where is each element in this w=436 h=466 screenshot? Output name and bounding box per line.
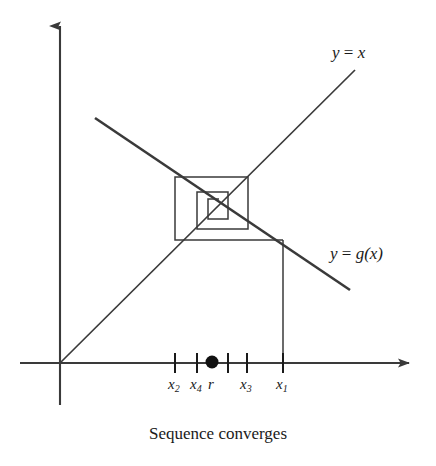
identity-label-equals: = [344, 43, 354, 62]
identity-label-x: x [358, 43, 366, 62]
g-function-line [95, 118, 350, 290]
tick-label-x3-base: x [240, 376, 247, 392]
tick-label-x4-base: x [190, 376, 197, 392]
tick-label-x2-base: x [168, 376, 175, 392]
g-label-y: y [330, 244, 338, 263]
fixed-point-dot [206, 356, 219, 369]
g-function-label: y = g(x) [330, 245, 383, 262]
figure-caption: Sequence converges [0, 424, 436, 444]
tick-label-x3: x3 [240, 377, 252, 392]
g-label-gx: g(x) [356, 244, 383, 263]
g-label-equals: = [342, 244, 352, 263]
tick-label-r: r [208, 377, 214, 392]
tick-label-x1-base: x [276, 376, 283, 392]
identity-label-y: y [332, 43, 340, 62]
cobweb-diagram: y = x y = g(x) x2 x4 r x3 x1 Sequence co… [0, 0, 436, 466]
tick-label-x4-sub: 4 [197, 383, 202, 394]
identity-line-label: y = x [332, 44, 365, 61]
plot-canvas [0, 0, 436, 466]
axes [20, 26, 409, 405]
tick-label-x1: x1 [276, 377, 288, 392]
tick-label-x3-sub: 3 [247, 383, 252, 394]
tick-label-x2-sub: 2 [175, 383, 180, 394]
tick-label-x4: x4 [190, 377, 202, 392]
tick-label-x1-sub: 1 [283, 383, 288, 394]
tick-label-x2: x2 [168, 377, 180, 392]
